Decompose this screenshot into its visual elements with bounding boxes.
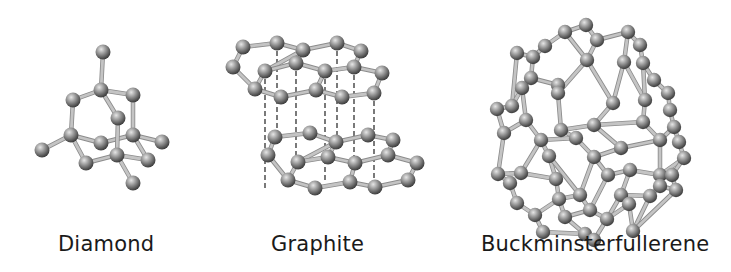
carbon-atom: [638, 93, 652, 107]
carbon-atom: [580, 53, 594, 67]
carbon-atom: [126, 176, 141, 191]
carbon-atom: [669, 183, 683, 197]
carbon-atom: [375, 66, 390, 81]
buckminsterfullerene-structure: [490, 18, 691, 247]
carbon-atom: [270, 36, 285, 51]
carbon-atom: [354, 44, 369, 59]
carbon-atom: [401, 173, 416, 188]
carbon-atom: [667, 120, 681, 134]
carbon-atom: [497, 126, 511, 140]
carbon-atom: [236, 40, 251, 55]
carbon-atom: [226, 60, 241, 75]
carbon-atom: [281, 173, 296, 188]
carbon-atom: [623, 163, 637, 177]
carbon-atom: [258, 64, 273, 79]
carbon-atom: [274, 90, 289, 105]
carbon-atom: [309, 83, 324, 98]
carbon-atom: [141, 153, 156, 168]
carbon-atom: [368, 180, 383, 195]
carbon-atom: [665, 168, 679, 182]
buckminsterfullerene-label: Buckminsterfullerene: [481, 232, 709, 256]
carbon-atom: [606, 96, 620, 110]
carbon-atom: [289, 56, 304, 71]
carbon-atom: [549, 172, 563, 186]
carbon-atom: [515, 81, 529, 95]
carbon-atom: [590, 33, 604, 47]
carbon-atom: [653, 133, 667, 147]
carbon-atom: [386, 133, 401, 148]
carbon-atom: [587, 118, 601, 132]
carbon-atom: [558, 210, 572, 224]
carbon-atom: [677, 151, 691, 165]
carbon-atom: [600, 212, 614, 226]
carbon-atom: [636, 56, 650, 70]
carbon-atom: [330, 36, 345, 51]
carbon-atom: [538, 39, 552, 53]
carbon-atom: [79, 156, 94, 171]
carbon-atom: [552, 192, 566, 206]
carbon-atom: [348, 156, 363, 171]
carbon-atom: [621, 25, 635, 39]
carbon-atom: [528, 208, 542, 222]
carbon-atom: [410, 156, 425, 171]
carbon-atom: [672, 135, 686, 149]
carbon-atom: [335, 90, 350, 105]
carbon-atom: [64, 128, 79, 143]
carbon-atom: [347, 60, 362, 75]
carbon-atom: [617, 55, 631, 69]
carbon-atom: [514, 166, 528, 180]
carbon-atom: [647, 73, 661, 87]
carbon-atom: [66, 93, 81, 108]
carbon-atom: [329, 135, 344, 150]
carbon-atom: [534, 133, 548, 147]
carbon-atom: [503, 176, 517, 190]
carbon-atom: [569, 131, 583, 145]
carbon-atom: [636, 115, 650, 129]
carbon-atom: [542, 149, 556, 163]
carbon-atom: [381, 148, 396, 163]
carbon-atom: [111, 111, 126, 126]
carbon-atom: [94, 136, 109, 151]
carbon-atom: [505, 99, 519, 113]
carbon-atom: [318, 64, 333, 79]
carbon-atom: [510, 196, 524, 210]
carbon-atom: [526, 50, 540, 64]
carbon-atom: [35, 143, 50, 158]
carbon-atom: [519, 113, 533, 127]
carbon-atom: [343, 175, 358, 190]
carbon-atom: [291, 155, 306, 170]
graphite-structure: [226, 36, 425, 196]
carbon-atom: [126, 88, 141, 103]
carbon-atom: [308, 181, 323, 196]
carbon-atom: [653, 179, 667, 193]
carbon-atom: [491, 167, 505, 181]
carbon-atom: [248, 82, 263, 97]
carbon-atom: [321, 150, 336, 165]
carbon-atom: [490, 102, 504, 116]
carbon-atom: [296, 43, 311, 58]
carbon-atom: [94, 83, 109, 98]
carbon-atom: [361, 128, 376, 143]
carbon-atom: [554, 123, 568, 137]
carbon-atom: [633, 38, 647, 52]
carbon-atom: [367, 86, 382, 101]
bond: [587, 60, 613, 103]
carbon-atom: [661, 86, 675, 100]
carbon-atom: [96, 45, 111, 60]
carbon-atom: [155, 135, 170, 150]
carbon-atom: [268, 130, 283, 145]
carbon-atom: [126, 128, 141, 143]
carbon-atom: [510, 46, 524, 60]
carbon-atom: [614, 141, 628, 155]
carbon-atom: [579, 18, 593, 32]
carbon-atom: [551, 86, 565, 100]
graphite-label: Graphite: [271, 232, 364, 256]
carbon-atom: [558, 25, 572, 39]
carbon-atom: [573, 188, 587, 202]
carbon-atom: [110, 148, 125, 163]
diamond-structure: [35, 45, 170, 191]
carbon-atom: [303, 126, 318, 141]
carbon-atom: [601, 168, 615, 182]
diamond-label: Diamond: [58, 232, 154, 256]
carbon-atom: [261, 148, 276, 163]
